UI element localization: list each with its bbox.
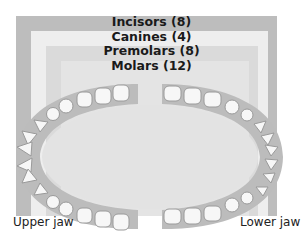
premolar-tooth xyxy=(241,192,253,204)
molar-tooth xyxy=(77,208,92,223)
molar-tooth xyxy=(184,88,201,104)
molar-tooth xyxy=(204,206,221,221)
lower-jaw-label: Lower jaw xyxy=(240,215,300,229)
premolar-tooth xyxy=(59,202,73,216)
molar-tooth xyxy=(164,86,181,101)
upper-jaw-label: Upper jaw xyxy=(13,215,74,229)
molar-tooth xyxy=(184,208,201,224)
molar-tooth xyxy=(95,88,111,104)
premolar-tooth xyxy=(225,198,239,212)
premolar-tooth xyxy=(225,100,239,114)
molar-tooth xyxy=(77,92,92,107)
premolar-tooth xyxy=(241,109,253,121)
molar-tooth xyxy=(113,85,129,101)
palate xyxy=(42,105,258,209)
premolar-tooth xyxy=(47,196,60,209)
premolar-tooth xyxy=(59,99,73,113)
molar-tooth xyxy=(204,92,221,107)
molar-tooth xyxy=(95,211,111,227)
premolar-tooth xyxy=(47,108,60,121)
molar-tooth xyxy=(113,214,129,230)
dental-arch-illustration xyxy=(0,0,303,246)
molar-tooth xyxy=(164,209,181,224)
